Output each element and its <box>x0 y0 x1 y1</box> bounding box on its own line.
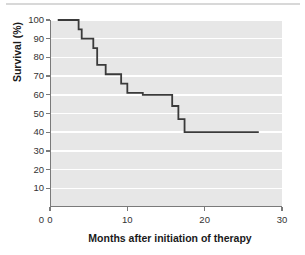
plot-area <box>50 20 282 207</box>
y-tick-mark <box>46 38 50 39</box>
y-tick-mark <box>46 188 50 189</box>
x-tick-mark <box>127 207 128 211</box>
x-tick-mark <box>204 207 205 211</box>
y-tick-mark <box>46 132 50 133</box>
gridline <box>51 188 282 190</box>
y-tick-mark <box>46 57 50 58</box>
y-tick-label: 20 <box>4 164 44 175</box>
gridline <box>51 131 282 133</box>
gridline <box>51 57 282 59</box>
gridline <box>51 38 282 40</box>
y-tick-mark <box>46 94 50 95</box>
survival-chart-figure: Survival (%) Months after initiation of … <box>0 0 305 255</box>
y-tick-label: 50 <box>4 108 44 119</box>
y-tick-mark <box>46 169 50 170</box>
x-tick-label: 30 <box>267 214 297 225</box>
gridline <box>51 75 282 77</box>
gridline <box>51 113 282 115</box>
y-tick-mark <box>46 150 50 151</box>
y-tick-label: 80 <box>4 51 44 62</box>
y-tick-label: 40 <box>4 126 44 137</box>
y-tick-label: 30 <box>4 145 44 156</box>
y-tick-mark <box>46 113 50 114</box>
y-tick-label: 10 <box>4 182 44 193</box>
x-tick-label: 10 <box>112 214 142 225</box>
x-tick-label: 0 <box>35 214 65 225</box>
y-tick-label: 70 <box>4 70 44 81</box>
gridline <box>51 150 282 152</box>
x-tick-label: 20 <box>190 214 220 225</box>
gridline <box>51 169 282 171</box>
x-tick-mark <box>281 207 282 211</box>
y-tick-mark <box>46 19 50 20</box>
y-tick-label: 100 <box>4 14 44 25</box>
x-axis-label: Months after initiation of therapy <box>50 232 290 244</box>
y-tick-label: 60 <box>4 89 44 100</box>
x-tick-mark <box>49 207 50 211</box>
gridline <box>51 94 282 96</box>
gridline <box>51 19 282 21</box>
y-tick-label: 90 <box>4 33 44 44</box>
y-tick-mark <box>46 75 50 76</box>
